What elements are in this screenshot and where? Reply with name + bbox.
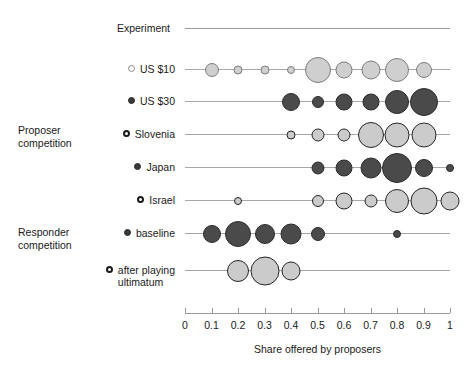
bubble-israel-0.9 bbox=[410, 187, 437, 214]
row-baseline-japan bbox=[185, 167, 450, 168]
bubble-baseline-0.5 bbox=[311, 227, 325, 241]
x-axis-tick-0.5 bbox=[318, 308, 319, 313]
x-axis-tick-label-0.9: 0.9 bbox=[416, 319, 431, 331]
bubble-slovenia-0.9 bbox=[411, 122, 436, 147]
plot-area bbox=[0, 0, 474, 373]
row-label-japan[interactable]: Japan bbox=[0, 161, 183, 173]
bubble-chart: Experiment Proposer competition Responde… bbox=[0, 0, 474, 373]
row-label-text: US $30 bbox=[140, 95, 175, 107]
bubble-us-10-0.2 bbox=[234, 65, 243, 74]
bubble-japan-0.5 bbox=[311, 161, 324, 174]
x-axis-tick-label-0.4: 0.4 bbox=[284, 319, 299, 331]
bubble-japan-0.8 bbox=[382, 153, 412, 183]
bubble-japan-0.9 bbox=[415, 159, 433, 177]
x-axis-tick-0.4 bbox=[291, 308, 292, 313]
bubble-us-30-0.6 bbox=[336, 93, 353, 110]
legend-marker-israel-icon bbox=[137, 196, 144, 203]
bubble-us-10-0.1 bbox=[205, 63, 219, 77]
row-label-text: baseline bbox=[136, 227, 175, 239]
bubble-us-30-0.5 bbox=[312, 96, 324, 108]
bubble-israel-1 bbox=[441, 191, 460, 210]
bubble-us-10-0.9 bbox=[416, 62, 432, 78]
bubble-slovenia-0.7 bbox=[358, 122, 384, 148]
bubble-us-30-0.8 bbox=[385, 90, 409, 114]
experiment-header-rule bbox=[185, 28, 450, 29]
bubble-us-10-0.8 bbox=[385, 58, 409, 82]
row-baseline-after-playing bbox=[185, 270, 450, 271]
legend-marker-us-10-icon bbox=[128, 65, 135, 72]
bubble-after-playing-0.4 bbox=[282, 261, 301, 280]
bubble-japan-0.6 bbox=[336, 159, 353, 176]
legend-marker-after-playing-icon bbox=[106, 266, 113, 273]
bubble-slovenia-0.5 bbox=[311, 128, 324, 141]
x-axis-tick-label-0.5: 0.5 bbox=[310, 319, 325, 331]
bubble-baseline-0.1 bbox=[203, 225, 221, 243]
x-axis-title: Share offered by proposers bbox=[185, 343, 450, 355]
legend-marker-japan-icon bbox=[134, 163, 141, 170]
bubble-baseline-0.4 bbox=[281, 223, 302, 244]
x-axis-tick-label-0: 0 bbox=[182, 319, 188, 331]
bubble-israel-0.5 bbox=[312, 195, 324, 207]
bubble-us-30-0.7 bbox=[362, 93, 379, 110]
legend-marker-us-30-icon bbox=[128, 97, 135, 104]
x-axis-tick-0.1 bbox=[212, 308, 213, 313]
bubble-slovenia-0.8 bbox=[385, 122, 410, 147]
row-label-israel[interactable]: Israel bbox=[0, 194, 183, 206]
bubble-us-10-0.7 bbox=[361, 60, 380, 79]
bubble-after-playing-0.3 bbox=[250, 256, 279, 285]
bubble-israel-0.6 bbox=[336, 192, 353, 209]
legend-marker-baseline-icon bbox=[124, 229, 131, 236]
bubble-us-10-0.6 bbox=[336, 61, 353, 78]
bubble-slovenia-0.4 bbox=[287, 130, 296, 139]
bubble-baseline-0.3 bbox=[255, 224, 275, 244]
bubble-japan-1 bbox=[446, 164, 454, 172]
row-label-us-10[interactable]: US $10 bbox=[0, 63, 183, 75]
bubble-israel-0.2 bbox=[234, 197, 242, 205]
row-label-text: after playing ultimatum bbox=[118, 264, 175, 288]
bubble-us-10-0.3 bbox=[260, 65, 269, 74]
x-axis-tick-0 bbox=[185, 308, 186, 313]
x-axis-tick-label-0.2: 0.2 bbox=[231, 319, 246, 331]
x-axis-tick-0.7 bbox=[371, 308, 372, 313]
row-label-baseline[interactable]: baseline bbox=[0, 227, 183, 239]
x-axis-tick-label-0.1: 0.1 bbox=[204, 319, 219, 331]
row-baseline-baseline bbox=[185, 233, 450, 234]
bubble-baseline-0.8 bbox=[393, 230, 401, 238]
bubble-israel-0.7 bbox=[364, 194, 377, 207]
row-baseline-us-10 bbox=[185, 69, 450, 70]
row-baseline-slovenia bbox=[185, 134, 450, 135]
bubble-baseline-0.2 bbox=[225, 221, 251, 247]
x-axis-tick-1 bbox=[450, 308, 451, 313]
bubble-us-30-0.4 bbox=[282, 93, 300, 111]
bubble-us-10-0.5 bbox=[305, 57, 331, 83]
bubble-after-playing-0.2 bbox=[227, 260, 249, 282]
x-axis-tick-label-1: 1 bbox=[447, 319, 453, 331]
x-axis-tick-0.9 bbox=[424, 308, 425, 313]
row-label-text: US $10 bbox=[140, 63, 175, 75]
x-axis-tick-0.2 bbox=[238, 308, 239, 313]
row-label-after-playing[interactable]: after playing ultimatum bbox=[0, 264, 183, 288]
bubble-us-30-0.9 bbox=[410, 88, 438, 116]
bubble-japan-0.7 bbox=[360, 157, 381, 178]
x-axis-tick-0.8 bbox=[397, 308, 398, 313]
x-axis-tick-label-0.8: 0.8 bbox=[390, 319, 405, 331]
experiment-header-label: Experiment bbox=[60, 22, 170, 34]
x-axis-tick-label-0.3: 0.3 bbox=[257, 319, 272, 331]
row-label-slovenia[interactable]: Slovenia bbox=[0, 128, 183, 140]
row-label-text: Japan bbox=[146, 161, 175, 173]
x-axis-tick-label-0.7: 0.7 bbox=[363, 319, 378, 331]
legend-marker-slovenia-icon bbox=[123, 130, 130, 137]
x-axis-tick-0.6 bbox=[344, 308, 345, 313]
row-label-text: Israel bbox=[149, 194, 175, 206]
bubble-israel-0.8 bbox=[385, 189, 409, 213]
x-axis-tick-0.3 bbox=[265, 308, 266, 313]
bubble-slovenia-0.6 bbox=[338, 128, 351, 141]
x-axis-line bbox=[185, 313, 450, 314]
x-axis-tick-label-0.6: 0.6 bbox=[337, 319, 352, 331]
row-baseline-us-30 bbox=[185, 101, 450, 102]
row-label-us-30[interactable]: US $30 bbox=[0, 95, 183, 107]
bubble-us-10-0.4 bbox=[287, 66, 295, 74]
row-label-text: Slovenia bbox=[135, 128, 175, 140]
row-baseline-israel bbox=[185, 200, 450, 201]
